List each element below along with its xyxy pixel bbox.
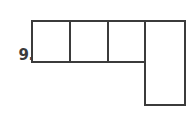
worksheet-figure-container: 9. xyxy=(0,0,191,125)
composite-figure-svg xyxy=(0,0,191,125)
